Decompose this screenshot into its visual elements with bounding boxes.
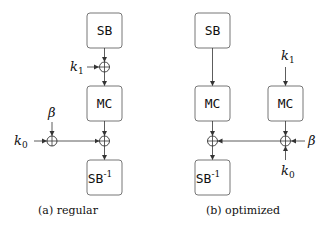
mc-key-label: MC	[278, 96, 294, 111]
panel-regular: SB k1 MC β k0 SB-1 (a) regul	[14, 13, 122, 217]
xor-main-icon	[208, 136, 218, 146]
k0-label: k0	[14, 133, 28, 150]
beta-label: β	[47, 105, 56, 120]
mc-label: MC	[205, 96, 221, 111]
caption-regular: (a) regular	[38, 204, 99, 217]
beta-label: β	[307, 133, 316, 148]
xor-key-icon	[281, 136, 291, 146]
xor-k1-icon	[100, 62, 110, 72]
k0-label: k0	[281, 163, 295, 180]
k1-label: k1	[281, 48, 295, 65]
xor-main-icon	[100, 136, 110, 146]
mc-label: MC	[97, 96, 113, 111]
panel-optimized: SB MC k1 MC β k0 SB-1 (b) optimized	[195, 13, 316, 217]
k1-label: k1	[70, 59, 84, 76]
caption-optimized: (b) optimized	[206, 204, 280, 217]
diagram: SB k1 MC β k0 SB-1 (a) regul	[0, 0, 326, 226]
sb-label: SB	[205, 23, 221, 38]
sb-label: SB	[97, 23, 113, 38]
xor-beta-icon	[47, 136, 57, 146]
